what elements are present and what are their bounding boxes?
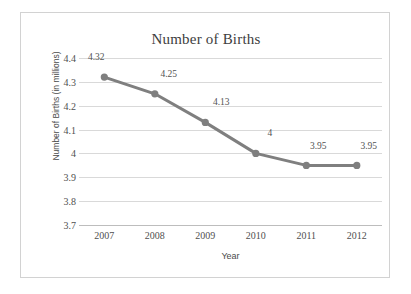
plot-area: 4.44.34.24.143.93.83.7 20072008200920102… (79, 58, 382, 225)
data-point-marker (353, 162, 360, 169)
chart-frame: Number of Births Number of Births (in mi… (20, 12, 390, 278)
x-axis-tick-label: 2009 (183, 230, 227, 241)
y-axis-tick-label: 3.7 (36, 220, 76, 231)
data-point-marker (303, 162, 310, 169)
y-axis-tick-label: 4.1 (36, 124, 76, 135)
data-point-label: 4.13 (213, 97, 230, 107)
data-point-marker (252, 150, 259, 157)
data-point-label: 4 (267, 128, 272, 138)
chart-figure: Number of Births Number of Births (in mi… (0, 0, 411, 294)
y-axis-tick-label: 3.8 (36, 196, 76, 207)
x-axis-tick-label: 2008 (133, 230, 177, 241)
data-point-marker (151, 90, 158, 97)
y-axis-tick-label: 4.4 (36, 53, 76, 64)
chart-title: Number of Births (21, 31, 391, 48)
x-axis-tick-label: 2012 (335, 230, 379, 241)
x-axis-tick-label: 2011 (284, 230, 328, 241)
data-point-label: 3.95 (360, 141, 377, 151)
x-axis-tick-label: 2010 (234, 230, 278, 241)
y-axis-tick-label: 4 (36, 148, 76, 159)
y-axis-tick-label: 4.2 (36, 100, 76, 111)
data-point-marker (101, 74, 108, 81)
y-axis-tick-label: 4.3 (36, 76, 76, 87)
data-point-marker (202, 119, 209, 126)
data-point-label: 4.25 (160, 69, 177, 79)
x-axis-title: Year (79, 251, 382, 261)
data-point-label: 3.95 (310, 141, 327, 151)
data-point-label: 4.32 (88, 52, 105, 62)
x-axis-tick-label: 2007 (82, 230, 126, 241)
series-line-births (79, 58, 382, 225)
gridline (79, 225, 382, 226)
y-axis-tick-label: 3.9 (36, 172, 76, 183)
